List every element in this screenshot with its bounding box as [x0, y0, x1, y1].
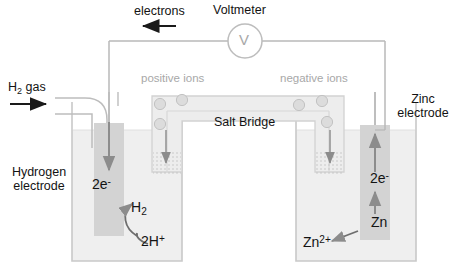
hydrogen-electrode-label-line1: Hydrogen: [12, 165, 66, 179]
negative-ions-label: negative ions: [280, 72, 348, 85]
zinc-ion-main: Zn: [303, 234, 319, 250]
diagram-graphics: [0, 0, 449, 278]
protons-main: 2H: [141, 233, 159, 249]
zinc-electrode-label: Zinc electrode: [397, 92, 449, 121]
salt-bridge: [152, 96, 344, 174]
voltmeter-symbol-label: V: [239, 31, 249, 48]
hydrogen-electrode-label-line2: electrode: [13, 179, 64, 193]
zinc-ion-superscript: 2+: [319, 234, 331, 245]
hydrogen-product-label: H2: [131, 199, 147, 217]
h2-gas-formula: H: [8, 80, 17, 94]
protons-superscript: +: [159, 233, 165, 244]
zinc-electrode-label-line2: electrode: [397, 106, 448, 120]
left-electrons-main: 2e: [92, 176, 108, 192]
positive-ions-label: positive ions: [141, 72, 204, 85]
hydrogen-electrode-label: Hydrogen electrode: [6, 165, 72, 194]
left-electrons-superscript: -: [108, 176, 111, 187]
hydrogen-product-subscript: 2: [141, 206, 147, 217]
zinc-electrode-label-line1: Zinc: [411, 92, 435, 106]
protons-label: 2H+: [141, 233, 165, 249]
salt-bridge-label: Salt Bridge: [214, 115, 275, 129]
voltmeter-label: Voltmeter: [213, 3, 266, 17]
hydrogen-product-main: H: [131, 199, 141, 215]
right-electrons-label: 2e-: [370, 170, 389, 186]
electrons-label: electrons: [134, 4, 185, 18]
zinc-metal-label: Zn: [371, 214, 387, 230]
h2-gas-tail: gas: [22, 80, 46, 94]
left-electrons-label: 2e-: [92, 176, 111, 192]
h2-gas-label: H2 gas: [8, 80, 46, 96]
cell-diagram-canvas: electrons Voltmeter V H2 gas positive io…: [0, 0, 449, 278]
right-electrons-superscript: -: [386, 170, 389, 181]
zinc-ion-label: Zn2+: [303, 234, 331, 250]
right-electrons-main: 2e: [370, 170, 386, 186]
